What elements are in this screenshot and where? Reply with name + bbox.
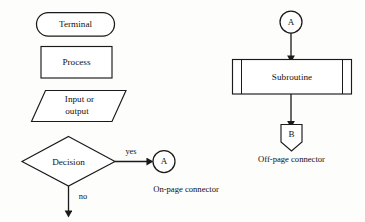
entry-connector-letter: A: [288, 17, 295, 27]
decision-no-branch: no: [69, 186, 88, 212]
on-page-connector-shape: A: [153, 151, 175, 173]
terminal-label: Terminal: [59, 19, 92, 29]
flowchart-diagram: Terminal Process Input or output Decisio…: [0, 0, 365, 222]
no-label: no: [79, 192, 87, 201]
subroutine-shape: Subroutine: [233, 60, 352, 95]
yes-label: yes: [125, 147, 136, 156]
process-label: Process: [62, 57, 90, 67]
terminal-shape: Terminal: [37, 13, 115, 37]
decision-yes-branch: yes: [115, 147, 148, 161]
off-page-connector-caption: Off-page connector: [258, 154, 325, 164]
input-output-label-line1: Input or: [65, 94, 94, 104]
input-output-label-line2: output: [65, 106, 89, 116]
process-shape: Process: [41, 47, 112, 79]
on-page-connector-caption: On-page connector: [153, 184, 219, 194]
on-page-connector-letter: A: [161, 156, 168, 166]
decision-label: Decision: [52, 157, 85, 167]
off-page-connector-letter: B: [288, 129, 294, 139]
off-page-connector-shape: B: [281, 125, 302, 152]
diagram-canvas: Terminal Process Input or output Decisio…: [0, 0, 365, 222]
decision-shape: Decision: [22, 137, 115, 187]
entry-connector-shape: A: [280, 11, 302, 33]
input-output-shape: Input or output: [32, 91, 127, 122]
subroutine-label: Subroutine: [272, 72, 312, 82]
